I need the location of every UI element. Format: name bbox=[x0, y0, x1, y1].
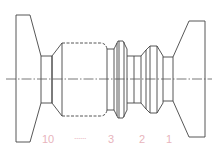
label-3: 3 bbox=[108, 134, 114, 145]
label-1: 1 bbox=[166, 134, 172, 145]
label-10: 10 bbox=[42, 134, 54, 145]
label-ellipsis: ...... bbox=[74, 131, 86, 141]
segment-2 bbox=[141, 46, 163, 113]
left-flange bbox=[16, 15, 41, 142]
label-2: 2 bbox=[139, 134, 145, 145]
left-neck bbox=[41, 56, 52, 103]
segment-10-outline bbox=[62, 43, 107, 49]
